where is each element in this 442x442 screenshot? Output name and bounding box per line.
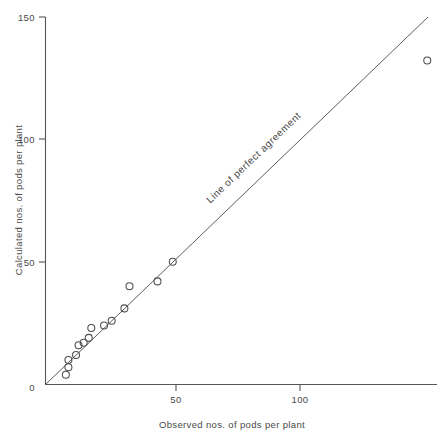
y-tick-label-150: 150 <box>18 12 35 23</box>
data-point <box>62 371 69 378</box>
x-tick-label-100: 100 <box>291 394 308 405</box>
data-point <box>85 334 92 341</box>
line-annotation-label: Line of perfect agreement <box>204 110 303 205</box>
data-point <box>126 283 133 290</box>
x-axis-tick-labels: 50 100 <box>170 394 308 405</box>
data-point <box>65 364 72 371</box>
data-point <box>154 278 161 285</box>
data-points-layer <box>62 57 430 378</box>
y-axis-ticks <box>39 17 46 262</box>
y-tick-label-0: 0 <box>29 382 35 393</box>
y-tick-label-50: 50 <box>24 257 35 268</box>
scatter-chart-figure: 150 100 50 0 50 100 Observed nos. of pod… <box>0 0 442 442</box>
x-axis-title: Observed nos. of pods per plant <box>159 419 305 430</box>
y-axis-title: Calculated nos. of pods per plant <box>13 125 24 275</box>
data-point <box>424 57 431 64</box>
chart-svg: 150 100 50 0 50 100 Observed nos. of pod… <box>0 0 442 442</box>
x-axis-ticks <box>176 385 300 392</box>
data-point <box>88 325 95 332</box>
x-tick-label-50: 50 <box>170 394 181 405</box>
